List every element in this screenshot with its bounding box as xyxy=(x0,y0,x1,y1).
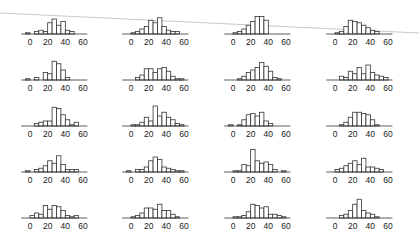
histogram-panel: 0204060 xyxy=(122,157,189,185)
x-tick-label: 40 xyxy=(366,221,376,231)
histogram-bar xyxy=(353,112,357,126)
histogram-bar xyxy=(144,167,148,172)
x-tick-label: 60 xyxy=(78,37,88,47)
histogram-bar xyxy=(149,161,153,172)
histogram-bar xyxy=(61,165,65,173)
histogram-bar xyxy=(357,23,361,34)
x-tick-label: 0 xyxy=(333,37,338,47)
histogram-bar xyxy=(52,163,56,172)
histogram-bar xyxy=(264,207,268,218)
x-tick-label: 40 xyxy=(264,175,274,185)
histogram-panel: 0204060 xyxy=(326,112,393,139)
histogram-bar xyxy=(264,20,268,34)
histogram-panel: 0204060 xyxy=(326,158,393,185)
histogram-bar xyxy=(375,168,379,172)
x-tick-label: 40 xyxy=(264,221,274,231)
histogram-bar xyxy=(61,211,65,219)
x-tick-label: 0 xyxy=(28,175,33,185)
x-tick-label: 40 xyxy=(61,175,71,185)
histogram-panel: 0204060 xyxy=(122,204,189,231)
histogram-panel: 0204060 xyxy=(224,150,291,186)
histogram-bar xyxy=(242,29,246,34)
x-tick-label: 20 xyxy=(144,129,154,139)
histogram-bar xyxy=(61,70,65,80)
histogram-bar xyxy=(43,206,47,219)
histogram-bar xyxy=(264,66,268,80)
histogram-bar xyxy=(370,73,374,81)
x-tick-label: 40 xyxy=(366,175,376,185)
histogram-bar xyxy=(366,65,370,80)
x-tick-label: 0 xyxy=(333,175,338,185)
x-tick-label: 20 xyxy=(246,129,256,139)
x-tick-label: 20 xyxy=(348,175,358,185)
x-tick-label: 20 xyxy=(43,221,53,231)
histogram-bar xyxy=(246,115,250,126)
histogram-bar xyxy=(344,214,348,218)
x-tick-label: 60 xyxy=(78,221,88,231)
histogram-bar xyxy=(57,207,61,218)
histogram-bar xyxy=(43,121,47,126)
histogram-bar xyxy=(158,204,162,218)
histogram-bar xyxy=(348,20,352,34)
histogram-bar xyxy=(162,112,166,126)
histogram-bar xyxy=(366,115,370,126)
histogram-bar xyxy=(158,116,162,126)
histogram-bar xyxy=(362,158,366,172)
x-tick-label: 0 xyxy=(28,129,33,139)
x-tick-label: 0 xyxy=(333,221,338,231)
x-tick-label: 40 xyxy=(366,83,376,93)
x-tick-label: 0 xyxy=(129,175,134,185)
histogram-panel: 0204060 xyxy=(21,107,88,139)
histogram-bar xyxy=(144,27,148,35)
x-tick-label: 20 xyxy=(246,37,256,47)
x-tick-label: 60 xyxy=(78,175,88,185)
x-tick-label: 0 xyxy=(129,83,134,93)
histogram-bar xyxy=(260,208,264,218)
x-tick-label: 40 xyxy=(264,37,274,47)
histogram-bar xyxy=(158,69,162,80)
x-tick-label: 0 xyxy=(231,175,236,185)
x-tick-label: 20 xyxy=(43,129,53,139)
histogram-bar xyxy=(149,121,153,126)
x-tick-label: 20 xyxy=(43,37,53,47)
histogram-bar xyxy=(344,166,348,172)
histogram-bar xyxy=(39,168,43,172)
histogram-bar xyxy=(39,214,43,218)
histogram-bar xyxy=(242,165,246,173)
histogram-bar xyxy=(162,167,166,172)
histogram-bar xyxy=(370,120,374,126)
x-tick-label: 40 xyxy=(162,175,172,185)
x-tick-label: 0 xyxy=(333,129,338,139)
histogram-bar xyxy=(246,166,250,172)
x-tick-label: 60 xyxy=(383,129,393,139)
x-tick-label: 60 xyxy=(281,129,291,139)
histogram-panel: 0204060 xyxy=(224,112,291,139)
histogram-bar xyxy=(348,163,352,172)
histogram-bar xyxy=(153,106,157,126)
histogram-bar xyxy=(344,27,348,35)
histogram-bar xyxy=(348,117,352,126)
x-tick-label: 20 xyxy=(144,175,154,185)
x-tick-label: 60 xyxy=(78,83,88,93)
histogram-bar xyxy=(74,122,78,126)
x-tick-label: 40 xyxy=(366,37,376,47)
x-tick-label: 60 xyxy=(179,175,189,185)
histogram-bar xyxy=(375,75,379,80)
histogram-bar xyxy=(166,71,170,80)
histogram-bar xyxy=(357,199,361,218)
histogram-bar xyxy=(251,22,255,35)
histogram-bar xyxy=(153,157,157,172)
histogram-panel: 0204060 xyxy=(326,199,393,231)
histogram-bar xyxy=(379,76,383,80)
histogram-bar xyxy=(268,214,272,218)
histogram-bar xyxy=(57,109,61,127)
histogram-bar xyxy=(57,64,61,80)
histogram-panels: 0204060020406002040600204060020406002040… xyxy=(21,17,393,232)
x-tick-label: 20 xyxy=(246,83,256,93)
histogram-bar xyxy=(353,204,357,218)
histogram-panel: 0204060 xyxy=(326,20,393,47)
histogram-bar xyxy=(370,30,374,34)
histogram-bar xyxy=(52,61,56,80)
histogram-bar xyxy=(162,211,166,219)
histogram-panel: 0204060 xyxy=(21,61,88,93)
